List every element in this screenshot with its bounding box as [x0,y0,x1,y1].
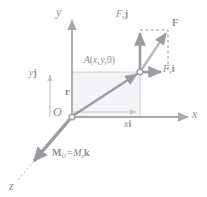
moment-magnitude: M [73,147,81,158]
point-a-paren-close: ) [112,55,115,65]
point-a-marker [137,69,143,75]
force-y-component-label: Fyj [116,9,128,19]
y-projection-label: yj [29,68,37,78]
force-x-subscript: x [169,68,172,75]
x-projection-unit-vector: i [128,118,131,129]
moment-subscript: O [61,152,65,159]
force-x-unit-vector: i [172,63,175,74]
origin-label: O [53,106,62,118]
y-axis-label: y [56,6,61,18]
mechanics-figure: y x z O A(x, y,0) Fyj F Fxi r yj xi MO =… [0,0,207,197]
force-resultant-label: F [172,18,178,28]
moment-label: MO = Mzk [52,148,90,158]
figure-canvas [0,0,207,197]
y-projection-unit-vector: j [33,67,36,78]
x-projection-label: xi [124,119,131,129]
moment-magnitude-subscript: z [82,152,84,159]
origin-marker [69,114,75,120]
force-y-subscript: y [122,13,125,20]
point-a-label: A(x, y,0) [84,56,115,66]
force-x-component-label: Fxi [163,64,175,74]
z-axis-label: z [9,180,14,192]
position-vector-label: r [65,86,70,97]
moment-equals: = [67,147,73,158]
moment-unit-vector: k [84,147,90,158]
force-y-unit-vector: j [125,8,128,19]
x-axis-label: x [192,108,197,120]
